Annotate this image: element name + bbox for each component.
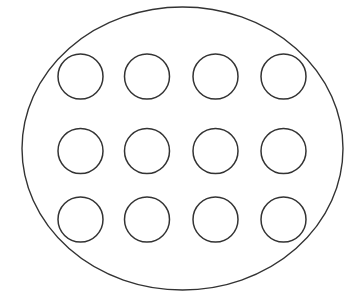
inner-circle-r1-c2 [125, 54, 170, 99]
diagram-canvas [0, 0, 347, 307]
inner-circle-r2-c3 [193, 129, 238, 174]
inner-circle-r3-c1 [58, 197, 103, 242]
inner-circle-r1-c3 [193, 54, 238, 99]
inner-circle-r1-c4 [261, 54, 306, 99]
inner-circle-r3-c4 [261, 197, 306, 242]
inner-circle-r2-c2 [125, 129, 170, 174]
inner-circle-r1-c1 [58, 54, 103, 99]
inner-circle-r3-c3 [193, 197, 238, 242]
inner-circle-r2-c1 [58, 129, 103, 174]
ellipse-with-circles-diagram [0, 0, 347, 307]
outer-ellipse [22, 7, 343, 290]
inner-circle-r2-c4 [261, 129, 306, 174]
inner-circle-grid [58, 54, 306, 242]
inner-circle-r3-c2 [125, 197, 170, 242]
